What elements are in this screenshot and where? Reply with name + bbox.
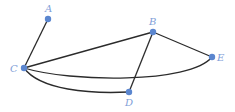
node-a (45, 16, 51, 22)
edge-b-d (129, 32, 153, 92)
graph-diagram: A B C D E (0, 0, 235, 112)
node-c (21, 65, 27, 71)
edges (24, 19, 212, 92)
nodes (21, 16, 215, 95)
edge-c-b (24, 32, 153, 68)
node-b (150, 29, 156, 35)
node-d (126, 89, 132, 95)
label-d: D (124, 97, 133, 108)
label-a: A (44, 3, 52, 14)
label-e: E (216, 52, 225, 63)
node-e (209, 54, 215, 60)
label-b: B (148, 16, 156, 27)
edge-a-c (24, 19, 48, 68)
edge-b-e (153, 32, 212, 57)
label-c: C (10, 63, 18, 74)
